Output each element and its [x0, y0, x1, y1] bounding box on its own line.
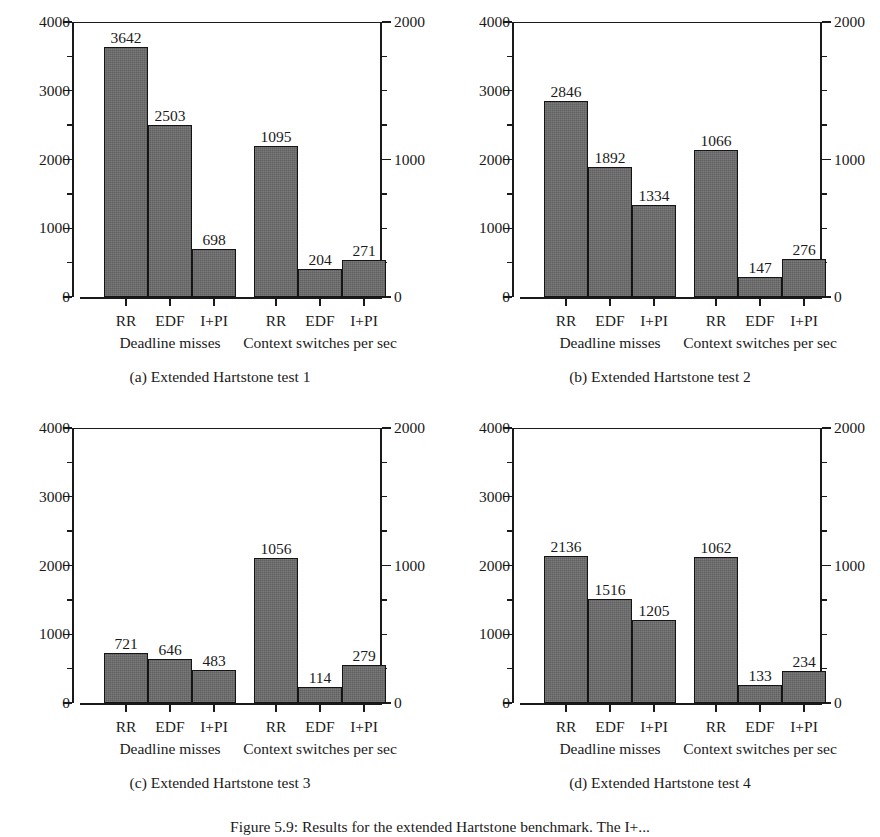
- y-tick-label-right: 1000: [834, 558, 865, 574]
- y-tick-label-left: 3000: [39, 489, 70, 505]
- x-tick: [363, 298, 365, 306]
- bar: [342, 260, 386, 297]
- y-tick-left-minor: [67, 124, 72, 125]
- panel-grid: 010002000300040000100020003642RR2503EDF6…: [0, 0, 880, 812]
- group-label: Context switches per sec: [234, 335, 406, 351]
- x-tick: [213, 704, 215, 712]
- y-tick-right-major: [382, 21, 391, 22]
- bar: [104, 653, 148, 703]
- y-tick-left-minor: [67, 462, 72, 463]
- plot-area: 010002000300040000100020002846RR1892EDF1…: [512, 22, 822, 297]
- y-tick-left-minor: [507, 193, 512, 194]
- y-tick-right-minor: [822, 193, 827, 194]
- y-tick-left-minor: [507, 668, 512, 669]
- y-tick-right-minor: [822, 124, 827, 125]
- y-tick-label-left: 1000: [39, 626, 70, 642]
- y-tick-right-minor: [382, 56, 387, 57]
- y-tick-left-minor: [507, 599, 512, 600]
- bar: [738, 277, 782, 297]
- y-tick-label-left: 3000: [479, 83, 510, 99]
- bar-value-label: 276: [768, 242, 840, 258]
- group-label: Context switches per sec: [674, 335, 846, 351]
- bar: [192, 670, 236, 703]
- y-tick-left-minor: [507, 56, 512, 57]
- plot-area: 010002000300040000100020002136RR1516EDF1…: [512, 428, 822, 703]
- bar: [192, 249, 236, 297]
- y-tick-label-left: 1000: [479, 626, 510, 642]
- y-axis-left: [72, 428, 74, 703]
- y-tick-right-minor: [382, 90, 387, 91]
- x-tick: [319, 298, 321, 306]
- y-tick-label-left: 0: [502, 289, 510, 305]
- y-tick-left-minor: [67, 530, 72, 531]
- y-tick-label-right: 2000: [834, 14, 865, 30]
- y-tick-label-right: 0: [394, 695, 402, 711]
- y-tick-right-major: [822, 427, 831, 428]
- y-tick-right-minor: [382, 462, 387, 463]
- y-tick-left-minor: [507, 530, 512, 531]
- x-tick: [125, 704, 127, 712]
- y-tick-label-left: 3000: [479, 489, 510, 505]
- x-category-label: I+PI: [770, 313, 838, 329]
- chart-panel-c: 01000200030004000010002000721RR646EDF483…: [0, 406, 440, 812]
- bar-value-label: 1892: [574, 150, 646, 166]
- y-tick-label-left: 0: [62, 695, 70, 711]
- y-tick-right-minor: [382, 228, 387, 229]
- figure-caption-text: Figure 5.9: Results for the extended Har…: [230, 818, 650, 836]
- x-tick: [169, 704, 171, 712]
- bar: [738, 685, 782, 703]
- x-tick: [319, 704, 321, 712]
- y-tick-label-left: 2000: [479, 558, 510, 574]
- x-category-label: I+PI: [180, 719, 248, 735]
- x-tick: [125, 298, 127, 306]
- y-axis-left: [72, 22, 74, 297]
- x-tick: [715, 298, 717, 306]
- bar: [342, 665, 386, 703]
- plot-top-border: [512, 428, 822, 429]
- plot-top-border: [72, 22, 382, 23]
- group-label: Context switches per sec: [234, 741, 406, 757]
- x-tick: [565, 298, 567, 306]
- bar-value-label: 3642: [90, 30, 162, 46]
- y-tick-label-right: 1000: [394, 558, 425, 574]
- y-axis-left: [512, 428, 514, 703]
- y-tick-label-left: 2000: [39, 558, 70, 574]
- panel-subcaption: (c) Extended Hartstone test 3: [0, 774, 440, 792]
- bar-value-label: 1205: [618, 603, 690, 619]
- y-tick-right-minor: [822, 496, 827, 497]
- bar-value-label: 698: [178, 232, 250, 248]
- bar: [782, 671, 826, 703]
- y-tick-label-right: 1000: [394, 152, 425, 168]
- figure-caption: Figure 5.9: Results for the extended Har…: [0, 818, 880, 837]
- plot-area: 010002000300040000100020003642RR2503EDF6…: [72, 22, 382, 297]
- y-tick-label-right: 0: [394, 289, 402, 305]
- y-tick-label-left: 0: [62, 289, 70, 305]
- bar-value-label: 279: [328, 648, 400, 664]
- y-tick-label-right: 2000: [394, 420, 425, 436]
- y-tick-label-left: 2000: [39, 152, 70, 168]
- y-tick-right-major: [822, 565, 831, 566]
- y-tick-label-left: 4000: [39, 14, 70, 30]
- y-tick-right-minor: [822, 599, 827, 600]
- y-tick-left-minor: [67, 599, 72, 600]
- y-tick-right-minor: [822, 56, 827, 57]
- y-tick-label-left: 4000: [479, 14, 510, 30]
- y-tick-left-minor: [67, 56, 72, 57]
- panel-subcaption: (a) Extended Hartstone test 1: [0, 368, 440, 386]
- bar: [104, 47, 148, 297]
- bar-value-label: 2503: [134, 108, 206, 124]
- y-tick-left-minor: [67, 193, 72, 194]
- y-tick-label-left: 4000: [39, 420, 70, 436]
- x-tick: [715, 704, 717, 712]
- y-tick-right-minor: [382, 530, 387, 531]
- bar: [254, 146, 298, 297]
- y-tick-label-right: 0: [834, 289, 842, 305]
- bar: [632, 205, 676, 297]
- y-tick-label-right: 2000: [394, 14, 425, 30]
- panel-subcaption: (b) Extended Hartstone test 2: [440, 368, 880, 386]
- x-tick: [759, 704, 761, 712]
- bar: [298, 687, 342, 703]
- bar-value-label: 1062: [680, 540, 752, 556]
- x-category-label: I+PI: [330, 719, 398, 735]
- bar: [544, 556, 588, 703]
